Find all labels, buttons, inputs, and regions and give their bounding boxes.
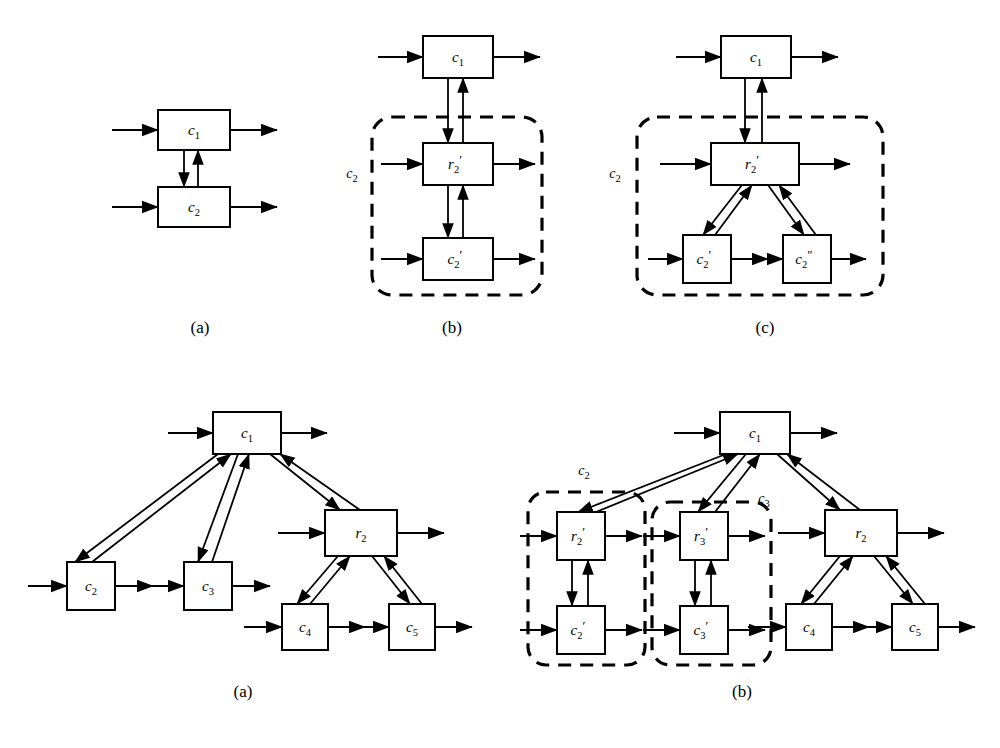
panel-bot-b: c1r2′c2′r3′c3′r2c4c5c2c3(b)	[520, 412, 975, 701]
panel-caption-top-b: (b)	[442, 318, 462, 337]
panel-top-b: c1r2′c2′c2(b)	[346, 36, 542, 337]
group-label-c2: c2	[609, 166, 620, 184]
link-r2-to-c5	[372, 556, 410, 604]
panel-top-c: c1r2′c2′c2″c2(c)	[609, 36, 883, 337]
panel-bot-a: c1c2c3r2c4c5(a)	[28, 412, 472, 701]
panel-caption-bot-b: (b)	[732, 682, 752, 701]
link-c1-to-r2	[777, 454, 840, 510]
diagram-layer: c1c2(a)c1r2′c2′c2(b)c1r2′c2′c2″c2(c)c1c2…	[28, 36, 975, 701]
link-c4-to-r2	[310, 556, 350, 604]
link-r2p-to-c2p	[703, 185, 742, 235]
panel-caption-top-a: (a)	[191, 318, 210, 337]
link-r2-to-c1	[280, 454, 360, 510]
panel-caption-top-c: (c)	[756, 318, 775, 337]
link-c2-to-c1	[92, 454, 231, 562]
panel-caption-bot-a: (a)	[234, 682, 253, 701]
block-diagram-svg: c1c2(a)c1r2′c2′c2(b)c1r2′c2′c2″c2(c)c1c2…	[0, 0, 1000, 748]
link-c2p-to-r2p	[715, 185, 752, 235]
group-label-c3: c3	[758, 491, 769, 509]
group-label-c2: c2	[578, 463, 589, 481]
link-c1-to-c2	[75, 454, 218, 562]
link-r2-to-c4	[297, 556, 338, 604]
link-c5-to-r2	[886, 556, 925, 604]
link-c5-to-r2	[384, 556, 422, 604]
panel-top-a: c1c2(a)	[112, 110, 277, 337]
link-r2-to-c5	[874, 556, 913, 604]
figure-canvas: c1c2(a)c1r2′c2′c2(b)c1r2′c2′c2″c2(c)c1c2…	[0, 0, 1000, 748]
group-label-c2: c2	[346, 166, 357, 184]
link-r2-to-c1	[787, 454, 860, 510]
link-c1-to-r2	[270, 454, 340, 510]
